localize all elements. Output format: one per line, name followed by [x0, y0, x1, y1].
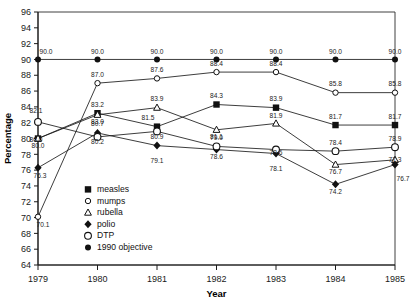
data-point-label: 78.1	[270, 165, 283, 172]
x-tick-label: 1984	[325, 274, 345, 284]
legend-item-DTP[interactable]: DTP	[85, 230, 115, 240]
marker-filled-diamond	[84, 220, 91, 228]
x-tick-label: 1980	[87, 274, 107, 284]
legend-item-measles[interactable]: measles	[85, 184, 129, 194]
data-point-label: 74.2	[329, 188, 342, 195]
marker-open-triangle	[85, 209, 92, 215]
chart-container: 6466687072747678808284868890929496197919…	[0, 0, 418, 302]
data-point-label: 79.1	[151, 157, 164, 164]
y-tick-label: 76	[21, 165, 31, 175]
marker-filled-diamond	[332, 180, 339, 188]
marker-filled-square	[332, 122, 338, 128]
data-point-label: 90.0	[329, 48, 342, 55]
data-point-label: 83.2	[91, 101, 104, 108]
marker-filled-circle	[35, 56, 41, 62]
data-point-label: 90.0	[40, 48, 53, 55]
data-point-label: 78.6	[270, 149, 283, 156]
data-point-label: 90.0	[210, 48, 223, 55]
data-point-label: 82.1	[30, 107, 43, 114]
data-point-label: 81.5	[142, 114, 155, 121]
data-point-label: 80.9	[151, 133, 164, 140]
y-axis-title: Percentage	[2, 113, 13, 164]
marker-open-circle-large	[35, 118, 42, 125]
y-tick-label: 70	[21, 213, 31, 223]
y-tick-label: 64	[21, 260, 31, 270]
x-tick-label: 1983	[266, 274, 286, 284]
marker-open-triangle	[154, 104, 161, 110]
data-point-label: 87.6	[151, 66, 164, 73]
y-tick-label: 78	[21, 150, 31, 160]
x-tick-label: 1982	[206, 274, 226, 284]
data-point-label: 78.4	[329, 139, 342, 146]
y-tick-label: 88	[21, 70, 31, 80]
series-mumps-segment	[38, 83, 98, 217]
marker-filled-square	[273, 104, 279, 110]
data-point-label: 80.0	[32, 142, 45, 149]
marker-filled-circle	[333, 56, 339, 62]
legend-label: mumps	[97, 196, 125, 206]
data-point-label: 83.9	[270, 95, 283, 102]
data-point-label: 81.7	[389, 113, 402, 120]
marker-open-circle	[95, 80, 100, 85]
marker-filled-circle	[392, 56, 398, 62]
data-point-label: 85.8	[389, 80, 402, 87]
data-point-label: 81.7	[329, 113, 342, 120]
x-axis: 1979198019811982198319841985	[28, 265, 405, 284]
legend-label: DTP	[97, 230, 114, 240]
data-point-label: 85.8	[329, 80, 342, 87]
data-point-label: 87.0	[91, 71, 104, 78]
y-tick-label: 94	[21, 23, 31, 33]
data-point-label: 78.9	[389, 135, 402, 142]
y-tick-label: 72	[21, 197, 31, 207]
data-point-label: 79.0	[210, 134, 223, 141]
data-point-label: 90.0	[270, 48, 283, 55]
line-chart: 6466687072747678808284868890929496197919…	[0, 0, 418, 302]
y-tick-label: 68	[21, 229, 31, 239]
y-tick-label: 66	[21, 244, 31, 254]
y-tick-label: 90	[21, 55, 31, 65]
data-point-label: 88.4	[270, 60, 283, 67]
x-tick-label: 1979	[28, 274, 48, 284]
marker-filled-square	[85, 186, 91, 192]
data-point-label: 84.3	[210, 92, 223, 99]
legend-item-1990-objective[interactable]: 1990 objective	[85, 242, 153, 252]
legend-label: rubella	[97, 207, 123, 217]
marker-open-circle	[392, 90, 397, 95]
marker-filled-circle	[95, 56, 101, 62]
marker-open-circle	[214, 69, 219, 74]
data-point-label: 76.7	[397, 175, 410, 182]
data-point-label: 70.1	[37, 221, 50, 228]
data-point-label: 83.9	[151, 95, 164, 102]
data-point-label: 88.4	[210, 60, 223, 67]
data-point-label: 77.3	[389, 156, 402, 163]
legend-item-polio[interactable]: polio	[84, 219, 115, 229]
legend-item-rubella[interactable]: rubella	[85, 207, 123, 217]
y-tick-label: 74	[21, 181, 31, 191]
marker-open-circle	[154, 76, 159, 81]
marker-open-circle	[273, 69, 278, 74]
y-tick-label: 92	[21, 39, 31, 49]
legend-item-mumps[interactable]: mumps	[85, 196, 125, 206]
data-point-label: 90.0	[389, 48, 402, 55]
data-point-label: 90.0	[91, 48, 104, 55]
data-point-label: 80.7	[91, 120, 104, 127]
marker-open-circle-large	[85, 232, 92, 239]
marker-open-circle	[85, 198, 90, 203]
x-tick-label: 1985	[385, 274, 405, 284]
data-point-label: 76.3	[34, 172, 47, 179]
marker-open-circle-large	[332, 148, 339, 155]
x-axis-title: Year	[206, 288, 226, 299]
data-point-label: 81.9	[270, 112, 283, 119]
legend-label: 1990 objective	[97, 242, 153, 252]
data-point-label: 80.2	[91, 138, 104, 145]
data-point-label: 90.0	[151, 48, 164, 55]
legend-label: measles	[97, 184, 129, 194]
y-tick-label: 86	[21, 86, 31, 96]
marker-filled-square	[392, 122, 398, 128]
y-tick-label: 96	[21, 7, 31, 17]
data-point-label: 76.7	[329, 168, 342, 175]
legend-label: polio	[97, 219, 115, 229]
marker-open-triangle	[273, 120, 280, 126]
marker-open-circle-large	[213, 143, 220, 150]
marker-filled-square	[213, 101, 219, 107]
